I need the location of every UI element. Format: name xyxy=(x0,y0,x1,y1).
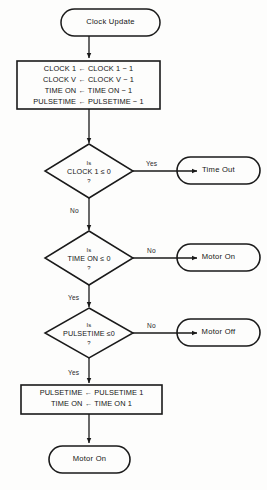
motor-on-lower-terminal-shape xyxy=(49,446,130,473)
branch-label-pulsetime-yes: Yes xyxy=(68,369,79,376)
branch-label-clock1-yes: Yes xyxy=(146,160,157,167)
decision-time-on-shape xyxy=(45,231,133,285)
branch-label-clock1-no: No xyxy=(70,207,79,214)
branch-label-pulsetime-no: No xyxy=(147,322,156,329)
decision-clock1-shape xyxy=(45,144,133,198)
branch-label-time-on-no: No xyxy=(147,247,156,254)
flowchart-canvas xyxy=(0,0,267,490)
decision-pulsetime-shape xyxy=(45,308,133,358)
reset-process-shape xyxy=(21,385,162,414)
branch-label-time-on-yes: Yes xyxy=(68,294,79,301)
start-terminal-shape xyxy=(61,9,160,36)
decrement-process-shape xyxy=(17,61,160,109)
